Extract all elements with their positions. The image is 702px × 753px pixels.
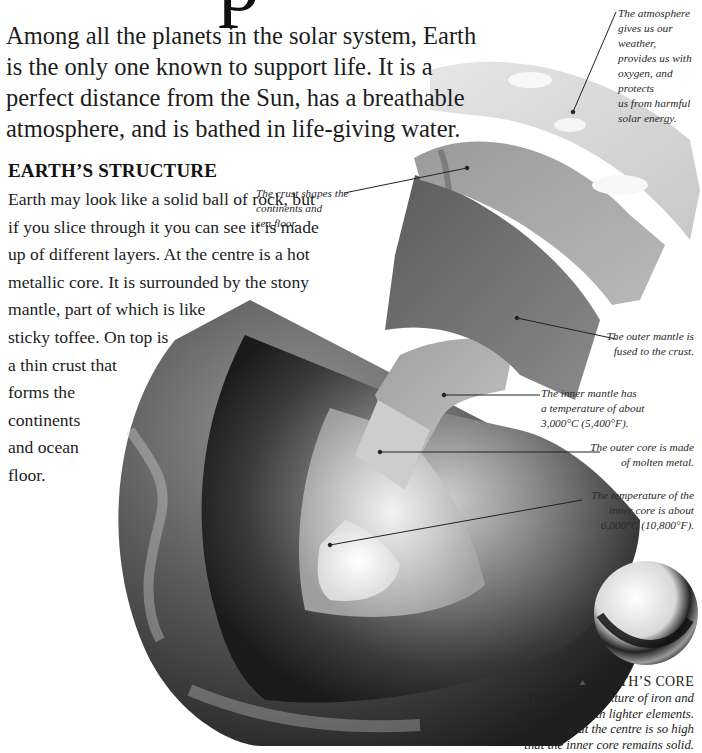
inner-mantle-caption: The inner mantle has a temperature of ab…: [541, 386, 644, 431]
caption-line: The outer core is made: [590, 440, 694, 455]
core-desc-line: The core is a mixture of iron and: [454, 691, 694, 707]
body-line: sticky toffee. On top is: [8, 324, 319, 352]
body-line: mantle, part of which is like: [8, 296, 319, 324]
caption-line: of molten metal.: [590, 455, 694, 470]
body-line: a thin crust that: [8, 352, 319, 380]
caption-line: solar energy.: [618, 111, 702, 126]
intro-line: perfect distance from the Sun, has a bre…: [6, 82, 426, 113]
caption-line: 6,000°C (10,800°F).: [591, 518, 694, 533]
caption-line: provides us with: [618, 51, 702, 66]
caption-line: continents and: [256, 201, 366, 216]
body-line: up of different layers. At the centre is…: [8, 241, 319, 269]
structure-paragraph: Earth may look like a solid ball of rock…: [8, 186, 319, 490]
intro-line: is the only one known to support life. I…: [6, 51, 426, 82]
intro-paragraph: Among all the planets in the solar syste…: [6, 20, 426, 144]
caption-line: inner core is about: [591, 503, 694, 518]
inner-core-caption: The temperature of the inner core is abo…: [591, 488, 694, 533]
body-line: metallic core. It is surrounded by the s…: [8, 269, 319, 297]
intro-line: atmosphere, and is bathed in life-giving…: [6, 113, 426, 144]
caption-line: The inner mantle has: [541, 386, 644, 401]
body-line: forms the: [8, 379, 319, 407]
caption-line: The temperature of the: [591, 488, 694, 503]
intro-line: Among all the planets in the solar syste…: [6, 20, 426, 51]
core-title: ▲EARTH’S CORE: [454, 673, 694, 691]
caption-line: us from harmful: [618, 96, 702, 111]
outer-mantle-caption: The outer mantle is fused to the crust.: [606, 329, 694, 359]
caption-line: The crust shapes the: [256, 186, 366, 201]
caption-line: The outer mantle is: [606, 329, 694, 344]
body-line: and ocean: [8, 434, 319, 462]
body-line: continents: [8, 407, 319, 435]
core-desc-line: nickel mixed with lighter elements.: [454, 707, 694, 723]
outer-core-caption: The outer core is made of molten metal.: [590, 440, 694, 470]
atmosphere-caption: The atmosphere gives us our weather, pro…: [618, 6, 702, 126]
caption-line: gives us our weather,: [618, 21, 702, 51]
earths-core-caption: ▲EARTH’S CORE The core is a mixture of i…: [454, 673, 694, 753]
caption-line: 3,000°C (5,400°F).: [541, 416, 644, 431]
core-desc-line: The pressure at the centre is so high: [454, 722, 694, 738]
caption-line: sea floor.: [256, 216, 366, 231]
caption-line: The atmosphere: [618, 6, 702, 21]
caption-line: oxygen, and protects: [618, 66, 702, 96]
core-title-text: EARTH’S CORE: [591, 674, 694, 689]
section-heading: EARTH’S STRUCTURE: [8, 160, 217, 182]
caption-line: a temperature of about: [541, 401, 644, 416]
core-desc-line: that the inner core remains solid.: [454, 738, 694, 753]
caption-line: fused to the crust.: [606, 344, 694, 359]
crust-caption: The crust shapes the continents and sea …: [256, 186, 366, 231]
body-line: floor.: [8, 462, 319, 490]
triangle-up-icon: ▲: [578, 677, 587, 687]
core-sphere-inset: [594, 561, 698, 665]
